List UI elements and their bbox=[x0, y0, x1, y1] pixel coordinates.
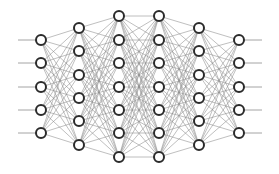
neuron-node bbox=[114, 11, 124, 21]
connection-edge bbox=[159, 16, 199, 28]
connection-edge bbox=[79, 28, 119, 40]
connection-edge bbox=[79, 133, 119, 145]
neurons bbox=[36, 11, 244, 162]
neuron-node bbox=[74, 93, 84, 103]
connection-edge bbox=[79, 16, 119, 28]
neuron-node bbox=[114, 105, 124, 115]
hidden-layer-3 bbox=[154, 11, 164, 162]
neuron-node bbox=[74, 46, 84, 56]
neuron-node bbox=[234, 82, 244, 92]
neuron-node bbox=[74, 140, 84, 150]
connection-edge bbox=[199, 133, 239, 145]
neuron-node bbox=[234, 105, 244, 115]
output-layer bbox=[234, 35, 244, 138]
connection-edge bbox=[159, 28, 199, 110]
neuron-node bbox=[114, 35, 124, 45]
neuron-node bbox=[194, 140, 204, 150]
connection-edge bbox=[79, 121, 119, 133]
neuron-node bbox=[234, 128, 244, 138]
neuron-node bbox=[114, 58, 124, 68]
neuron-node bbox=[114, 82, 124, 92]
neuron-node bbox=[194, 46, 204, 56]
io-lines bbox=[18, 40, 262, 133]
connection-edge bbox=[199, 63, 239, 145]
connection-edge bbox=[79, 145, 119, 157]
neuron-node bbox=[36, 105, 46, 115]
neuron-node bbox=[36, 58, 46, 68]
connection-edge bbox=[159, 28, 199, 40]
neuron-node bbox=[114, 128, 124, 138]
connection-edge bbox=[159, 145, 199, 157]
connection-edge bbox=[199, 40, 239, 98]
neuron-node bbox=[114, 152, 124, 162]
connection-edge bbox=[159, 121, 199, 133]
neuron-node bbox=[234, 35, 244, 45]
neuron-node bbox=[154, 58, 164, 68]
connection-edge bbox=[199, 51, 239, 63]
neuron-node bbox=[36, 35, 46, 45]
connection-edge bbox=[41, 75, 79, 133]
connection-edge bbox=[79, 63, 119, 145]
hidden-layer-2 bbox=[114, 11, 124, 162]
neural-network-diagram bbox=[0, 0, 279, 174]
hidden-layer-1 bbox=[74, 23, 84, 150]
neuron-node bbox=[36, 128, 46, 138]
connection-edge bbox=[159, 51, 199, 157]
neuron-node bbox=[154, 105, 164, 115]
connections bbox=[41, 16, 239, 157]
neuron-node bbox=[234, 58, 244, 68]
neuron-node bbox=[154, 82, 164, 92]
neuron-node bbox=[154, 35, 164, 45]
neuron-node bbox=[154, 11, 164, 21]
hidden-layer-4 bbox=[194, 23, 204, 150]
neuron-node bbox=[194, 70, 204, 80]
connection-edge bbox=[159, 121, 199, 157]
neuron-node bbox=[74, 116, 84, 126]
neuron-node bbox=[74, 70, 84, 80]
neuron-node bbox=[74, 23, 84, 33]
connection-edge bbox=[199, 28, 239, 40]
neuron-node bbox=[194, 23, 204, 33]
connection-edge bbox=[199, 121, 239, 133]
neuron-node bbox=[36, 82, 46, 92]
neuron-node bbox=[194, 93, 204, 103]
connection-edge bbox=[79, 16, 119, 98]
neuron-node bbox=[194, 116, 204, 126]
neuron-node bbox=[154, 128, 164, 138]
connection-edge bbox=[159, 51, 199, 63]
neuron-node bbox=[154, 152, 164, 162]
